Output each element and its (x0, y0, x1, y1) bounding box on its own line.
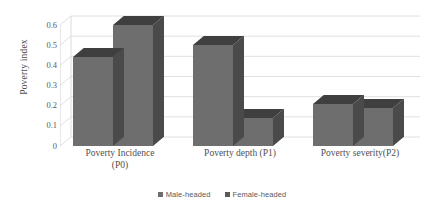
chart-legend: Male-headedFemale-headed (0, 190, 444, 199)
legend-swatch-icon (225, 192, 230, 197)
bar-male-headed (193, 45, 233, 146)
poverty-index-bar-chart: Poverty index 0.60.50.40.30.20.10 Povert… (0, 0, 444, 208)
y-tick-label: 0.5 (31, 41, 57, 50)
bars-layer (60, 12, 420, 158)
x-category-label: Poverty severity(P2) (286, 148, 434, 160)
bar-side-face (233, 36, 244, 146)
y-tick-label: 0.2 (31, 101, 57, 110)
y-tick-label: 0.6 (31, 21, 57, 30)
y-tick-label: 0.1 (31, 121, 57, 130)
legend-label: Male-headed (166, 190, 211, 199)
legend-item-female-headed[interactable]: Female-headed (225, 190, 287, 199)
legend-swatch-icon (158, 192, 163, 197)
bar-male-headed (313, 104, 353, 146)
x-axis-category-labels: Poverty Incidence(P0)Poverty depth (P1)P… (60, 148, 420, 182)
legend-label: Female-headed (233, 190, 287, 199)
y-tick-label: 0.3 (31, 81, 57, 90)
y-axis-tick-labels: 0.60.50.40.30.20.10 (24, 12, 57, 146)
bar-side-face (113, 48, 124, 146)
bar-side-face (153, 16, 164, 146)
bar-front-face (73, 57, 113, 146)
bar-male-headed (73, 57, 113, 146)
y-tick-label: 0.4 (31, 61, 57, 70)
x-category-label-line1: Poverty Incidence (86, 148, 155, 158)
x-category-label-line1: Poverty severity(P2) (321, 148, 399, 158)
bar-front-face (313, 104, 353, 146)
legend-item-male-headed[interactable]: Male-headed (158, 190, 211, 199)
x-category-label-line2: (P0) (46, 160, 194, 172)
x-category-label-line1: Poverty depth (P1) (204, 148, 276, 158)
bar-front-face (193, 45, 233, 146)
